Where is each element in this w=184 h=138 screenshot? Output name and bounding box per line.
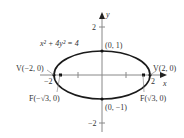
vertex-label-right: V(2, 0) [153,64,176,73]
tick-label-x-neg2: −2 [44,77,53,86]
vertex-label-left: V(−2, 0) [16,64,44,73]
tick-label-x-pos2: 2 [151,77,155,86]
point-top [100,49,103,52]
leader-vertex-left [47,70,54,75]
point-focus-left [59,74,62,77]
point-label-bottom: (0, −1) [105,103,127,112]
tick-label-y-neg2: −2 [88,119,97,128]
x-axis-label: x [162,79,167,88]
point-focus-right [142,74,145,77]
focus-label-right: F(√3, 0) [140,94,167,103]
focus-label-left: F(−√3, 0) [29,94,60,103]
ellipse-diagram: y x 2 −2 −2 2 x² + 4y² = 4 (0, 1) (0, −1… [0,0,184,138]
point-label-top: (0, 1) [105,41,123,50]
leader-focus-right [143,75,144,92]
tick-label-y-pos2: 2 [92,23,96,32]
y-axis-arrow-icon [99,12,105,19]
equation-label: x² + 4y² = 4 [39,39,79,48]
point-bottom [100,97,103,100]
y-axis-label: y [105,10,110,19]
